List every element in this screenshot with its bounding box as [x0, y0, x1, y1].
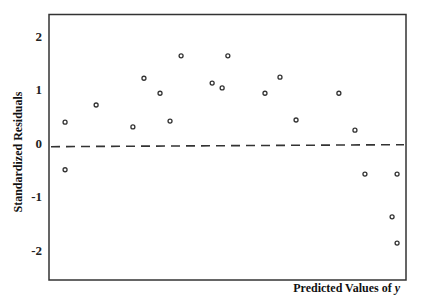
y-tick-label: -2 [31, 243, 42, 258]
data-point [168, 119, 172, 123]
data-point [294, 118, 298, 122]
y-axis-label: Standardized Residuals [11, 91, 25, 212]
data-point [395, 241, 399, 245]
data-point [142, 76, 146, 80]
zero-reference-dashed-line [51, 145, 404, 147]
data-point [63, 168, 67, 172]
y-axis-tick-labels: 210-1-2 [31, 29, 42, 258]
y-tick-label: 1 [36, 82, 43, 97]
data-point [390, 215, 394, 219]
y-tick-label: -1 [31, 189, 42, 204]
data-point [158, 91, 162, 95]
data-point [395, 172, 399, 176]
data-point [63, 120, 67, 124]
y-tick-label: 0 [36, 136, 43, 151]
data-points [63, 54, 399, 245]
data-point [363, 172, 367, 176]
y-tick-label: 2 [36, 29, 43, 44]
data-point [220, 86, 224, 90]
data-point [94, 103, 98, 107]
data-point [263, 91, 267, 95]
data-point [337, 91, 341, 95]
data-point [226, 54, 230, 58]
data-point [131, 125, 135, 129]
data-point [278, 75, 282, 79]
x-axis-label-variable: y [393, 281, 401, 295]
x-axis-label: Predicted Values of y [293, 281, 400, 295]
x-axis-label-text: Predicted Values of [293, 281, 392, 295]
data-point [353, 128, 357, 132]
data-point [179, 54, 183, 58]
data-point [210, 81, 214, 85]
residual-scatter-chart: 210-1-2 Standardized Residuals Predicted… [0, 0, 423, 302]
